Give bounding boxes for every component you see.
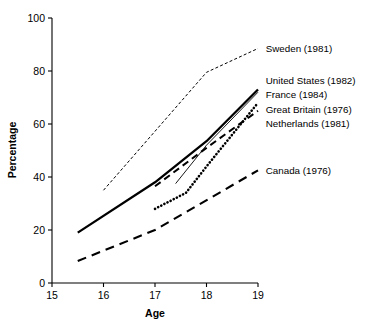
y-tick-label: 100 — [27, 12, 45, 24]
x-tick-label: 19 — [252, 289, 264, 301]
y-tick-label: 60 — [33, 118, 45, 130]
x-axis-title: Age — [145, 307, 165, 319]
series-label-4: Great Britain (1976) — [266, 104, 352, 115]
x-tick-label: 18 — [201, 289, 213, 301]
chart-container: 020406080100 1516171819 Sweden (1981)Uni… — [0, 0, 367, 325]
y-tick-label: 0 — [39, 277, 45, 289]
y-tick-label: 40 — [33, 171, 45, 183]
series-line-3 — [176, 92, 258, 183]
y-axis-ticks: 020406080100 — [27, 12, 52, 289]
x-tick-label: 17 — [149, 289, 161, 301]
line-chart: 020406080100 1516171819 Sweden (1981)Uni… — [0, 0, 367, 325]
series-label-3: France (1984) — [266, 89, 328, 100]
series-label-5: Netherlands (1981) — [266, 118, 350, 129]
y-axis-title: Percentage — [6, 122, 18, 179]
y-tick-label: 20 — [33, 224, 45, 236]
series-line-2 — [78, 90, 258, 233]
series-label-1: Sweden (1981) — [266, 43, 332, 54]
x-axis-ticks: 1516171819 — [46, 283, 264, 301]
series-line-5 — [155, 111, 258, 187]
series-line-1 — [104, 48, 259, 190]
x-tick-label: 15 — [46, 289, 58, 301]
series-line-4 — [155, 103, 258, 209]
x-tick-label: 16 — [98, 289, 110, 301]
series-label-2: United States (1982) — [266, 75, 356, 86]
y-tick-label: 80 — [33, 65, 45, 77]
series-paths-group — [78, 48, 258, 261]
series-labels-group: Sweden (1981)United States (1982)France … — [266, 43, 356, 176]
series-label-6: Canada (1976) — [266, 165, 331, 176]
